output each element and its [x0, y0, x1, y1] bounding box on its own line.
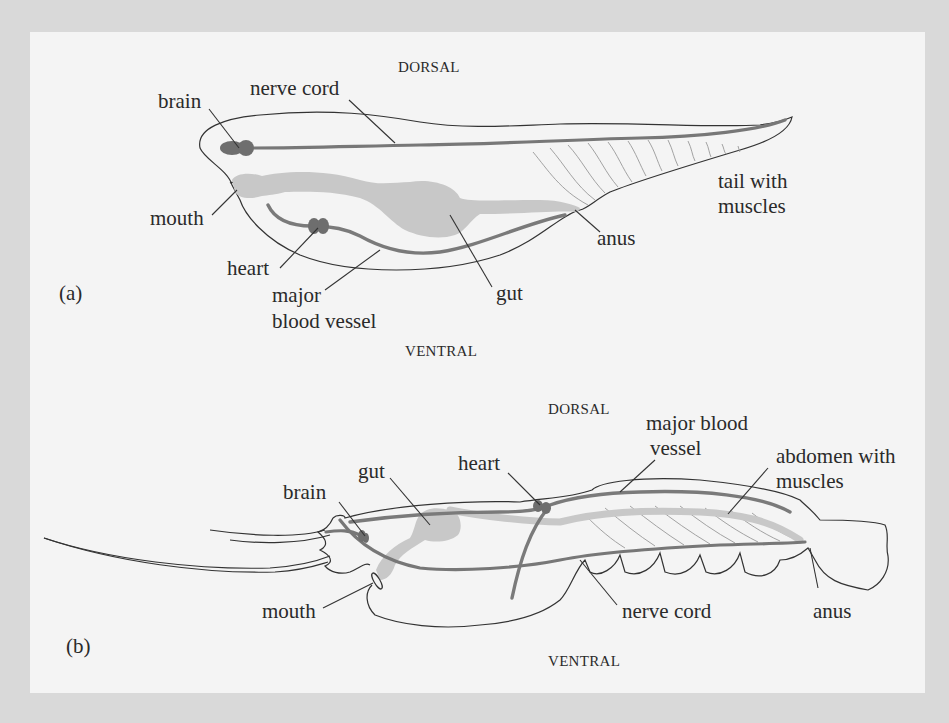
figure-b-label-heart: heart	[458, 451, 500, 475]
figure-a-label-gut: gut	[496, 281, 523, 305]
anatomy-diagram: DORSAL brain nerve cord mouth heart (a) …	[0, 0, 949, 723]
figure-b-label-nerve-cord: nerve cord	[622, 599, 712, 623]
figure-b-antenna-short-2	[230, 535, 330, 543]
figure-b-antenna-short	[210, 530, 325, 535]
figure-b-label-mouth: mouth	[262, 599, 316, 623]
figure-a-label-major-blood-vessel-line2: blood vessel	[272, 309, 377, 333]
figure-b-label-anus: anus	[813, 599, 852, 623]
figure-a-label-brain: brain	[158, 89, 202, 113]
figure-b-label-abdomen-line2: muscles	[776, 469, 844, 493]
figure-a-label-tail-line1: tail with	[718, 169, 788, 193]
figure-a-panel-label: (a)	[59, 281, 82, 305]
figure-b-heart	[533, 500, 551, 514]
figure-a-label-anus: anus	[597, 226, 636, 250]
figure-a-label-mouth: mouth	[150, 206, 204, 230]
figure-a	[200, 100, 792, 290]
figure-a-tail-muscles	[533, 140, 740, 205]
figure-b	[44, 460, 888, 627]
figure-a-dorsal-label: DORSAL	[398, 59, 460, 75]
figure-a-heart	[308, 218, 329, 234]
figure-b-gut-tube	[450, 510, 800, 540]
figure-a-brain	[220, 140, 254, 156]
figure-b-label-gut: gut	[358, 459, 385, 483]
figure-a-label-tail-line2: muscles	[718, 194, 786, 218]
figure-b-ventral-label: VENTRAL	[548, 653, 620, 669]
figure-b-label-brain: brain	[283, 480, 327, 504]
figure-b-panel-label: (b)	[66, 634, 91, 658]
figure-a-gut	[232, 172, 580, 237]
figure-a-ventral-label: VENTRAL	[405, 343, 477, 359]
figure-b-label-major-blood-vessel-line2: vessel	[650, 436, 701, 460]
figure-a-label-nerve-cord: nerve cord	[250, 76, 340, 100]
figure-b-nerve-to-antenna	[326, 531, 360, 535]
figure-a-label-major-blood-vessel-line1: major	[272, 283, 321, 307]
figure-b-label-abdomen-line1: abdomen with	[776, 444, 896, 468]
figure-a-nerve-cord	[250, 120, 785, 148]
figure-a-label-heart: heart	[227, 256, 269, 280]
figure-b-label-major-blood-vessel-line1: major blood	[646, 411, 749, 435]
figure-b-dorsal-label: DORSAL	[548, 401, 610, 417]
